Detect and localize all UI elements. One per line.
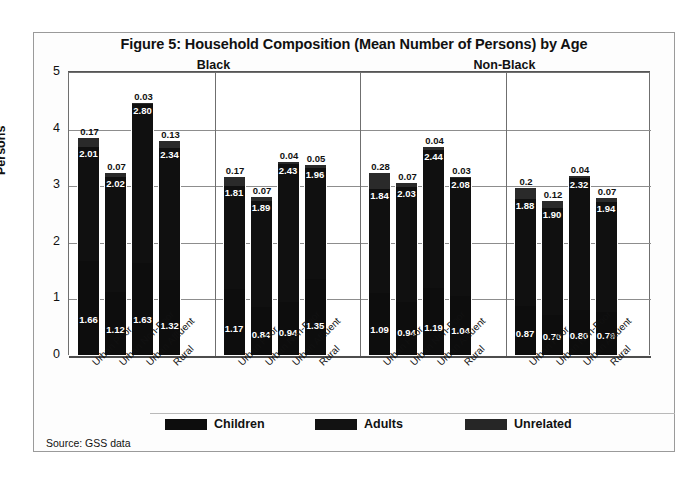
bar-segment-adults: 1.94 (595, 202, 618, 312)
bar-value-unrelated: 0.17 (76, 127, 103, 137)
bar-value-adults: 1.94 (596, 204, 617, 214)
legend-item-children[interactable]: Children (165, 417, 265, 431)
bar-value-unrelated: 0.13 (157, 130, 184, 140)
bar-value-unrelated: 0.04 (421, 136, 448, 146)
bar-segment-adults: 1.90 (541, 208, 564, 316)
bar-value-children: 1.09 (369, 325, 390, 335)
bar-segment-unrelated: 0.17 (223, 177, 246, 187)
y-axis-tick-0: 0 (34, 347, 60, 361)
bar-value-adults: 1.89 (251, 203, 272, 213)
bar-value-unrelated: 0.04 (567, 165, 594, 175)
bar-value-unrelated: 0.07 (594, 187, 621, 197)
legend-swatch-icon (315, 419, 357, 430)
bar-value-children: 1.66 (78, 315, 99, 325)
bar-value-unrelated: 0.04 (276, 151, 303, 161)
bar[interactable]: 0.21.880.87 (514, 188, 537, 355)
bar[interactable]: 0.171.811.17 (223, 177, 246, 355)
bar-value-adults: 1.88 (515, 201, 536, 211)
bar-segment-unrelated: 0.13 (158, 141, 181, 148)
superheader-non-black: Non-Black (359, 58, 650, 72)
bar-segment-adults: 1.96 (304, 168, 327, 279)
bar-segment-adults: 2.80 (131, 104, 154, 262)
bar-value-children: 1.63 (132, 315, 153, 325)
legend-divider (150, 413, 675, 414)
bar-value-adults: 2.02 (105, 179, 126, 189)
bar-value-unrelated: 0.28 (367, 162, 394, 172)
bar-value-unrelated: 0.07 (394, 172, 421, 182)
bar-segment-adults: 2.34 (158, 148, 181, 280)
bar-segment-adults: 2.02 (104, 177, 127, 291)
bar-value-unrelated: 0.05 (303, 154, 330, 164)
bar-segment-adults: 2.08 (449, 178, 472, 296)
bar-value-unrelated: 0.12 (540, 190, 567, 200)
bar-value-children: 1.17 (224, 324, 245, 334)
legend-label: Children (214, 417, 265, 431)
legend-swatch-icon (465, 419, 507, 430)
bar[interactable]: 0.032.801.63 (131, 103, 154, 355)
bar-segment-adults: 1.88 (514, 199, 537, 305)
panel-divider-1 (215, 73, 216, 356)
bar-segment-children: 1.66 (77, 261, 100, 355)
bar-segment-adults: 1.89 (250, 201, 273, 308)
bar[interactable]: 0.042.441.19 (422, 147, 445, 355)
bar-segment-unrelated: 0.28 (368, 173, 391, 189)
superheader-black: Black (68, 58, 359, 72)
panel-divider-3 (506, 73, 507, 356)
bar-value-adults: 1.96 (305, 170, 326, 180)
bar-segment-children: 1.09 (368, 293, 391, 355)
bar-segment-adults: 2.03 (395, 187, 418, 302)
y-axis-tick-5: 5 (34, 64, 60, 78)
figure-root: Figure 5: Household Composition (Mean Nu… (0, 0, 698, 479)
bar-value-adults: 2.03 (396, 189, 417, 199)
legend-label: Unrelated (514, 417, 572, 431)
chart-legend: ChildrenAdultsUnrelated (33, 417, 675, 439)
bar[interactable]: 0.172.011.66 (77, 138, 100, 355)
bar-segment-adults: 2.32 (568, 178, 591, 309)
bar-value-unrelated: 0.17 (222, 166, 249, 176)
bar-segment-adults: 1.81 (223, 186, 246, 288)
panel-divider-2 (360, 73, 361, 356)
bar-segment-adults: 2.44 (422, 150, 445, 288)
bar-segment-adults: 1.84 (368, 189, 391, 293)
bar-value-adults: 2.34 (159, 150, 180, 160)
page-title: Figure 5: Household Composition (Mean Nu… (33, 36, 675, 52)
y-axis-tick-2: 2 (34, 234, 60, 248)
plot-area: 0.172.011.660.072.021.120.032.801.630.13… (68, 72, 650, 355)
bar-segment-adults: 2.43 (277, 164, 300, 302)
legend-item-unrelated[interactable]: Unrelated (465, 417, 572, 431)
bar-value-adults: 1.90 (542, 210, 563, 220)
bar-value-adults: 1.84 (369, 191, 390, 201)
bar-value-adults: 2.43 (278, 166, 299, 176)
bar-segment-unrelated: 0.2 (514, 188, 537, 199)
bar-value-unrelated: 0.07 (103, 162, 130, 172)
bar-value-unrelated: 0.03 (130, 92, 157, 102)
bar-value-unrelated: 0.07 (249, 186, 276, 196)
source-note: Source: GSS data (46, 437, 131, 449)
y-axis-tick-1: 1 (34, 290, 60, 304)
bar[interactable]: 0.281.841.09 (368, 173, 391, 355)
bar-value-adults: 1.81 (224, 188, 245, 198)
bar-value-adults: 2.80 (132, 106, 153, 116)
y-axis-tick-4: 4 (34, 121, 60, 135)
legend-item-adults[interactable]: Adults (315, 417, 403, 431)
bar-value-adults: 2.08 (450, 180, 471, 190)
bar-segment-adults: 2.01 (77, 147, 100, 261)
bar-value-adults: 2.32 (569, 180, 590, 190)
bar-value-children: 0.87 (515, 329, 536, 339)
legend-label: Adults (364, 417, 403, 431)
legend-swatch-icon (165, 419, 207, 430)
bar-value-unrelated: 0.03 (448, 166, 475, 176)
bar-segment-unrelated: 0.17 (77, 138, 100, 148)
bar-segment-children: 0.87 (514, 306, 537, 355)
bar-value-unrelated: 0.2 (513, 177, 540, 187)
bar-value-adults: 2.44 (423, 152, 444, 162)
y-axis-label: Persons (0, 126, 8, 175)
bar-segment-unrelated: 0.12 (541, 201, 564, 208)
y-axis-tick-3: 3 (34, 177, 60, 191)
bar-segment-children: 1.17 (223, 289, 246, 355)
bar-value-adults: 2.01 (78, 149, 99, 159)
